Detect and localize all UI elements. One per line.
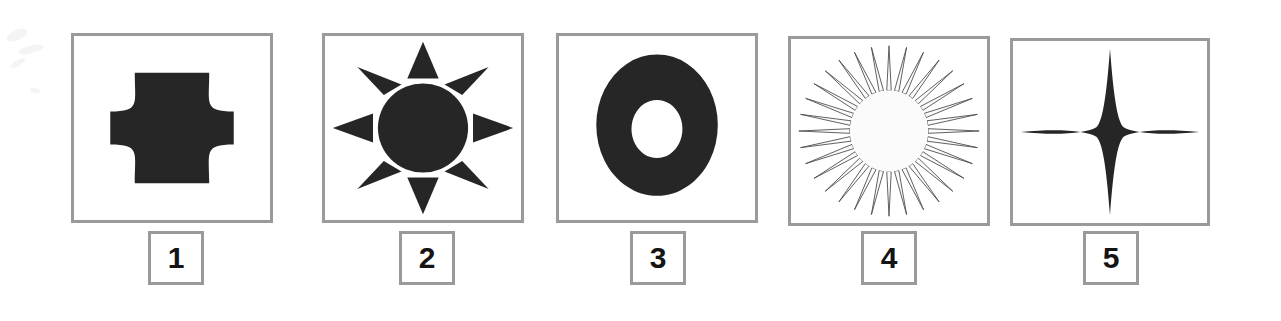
shape-label-number: 1 xyxy=(168,243,185,273)
shape-frame-5 xyxy=(1010,38,1210,226)
concave-square-cross-icon xyxy=(74,36,270,220)
shape-label-box-3: 3 xyxy=(630,231,686,285)
shape-frame-3 xyxy=(556,33,758,223)
shape-label-box-4: 4 xyxy=(861,231,917,285)
shape-label-box-1: 1 xyxy=(148,231,204,285)
starburst-outline-icon xyxy=(791,39,987,223)
shape-label-number: 5 xyxy=(1103,243,1120,273)
shape-frame-1 xyxy=(71,33,273,223)
annulus-ring-icon xyxy=(559,36,755,220)
shape-label-number: 3 xyxy=(650,243,667,273)
four-point-star-icon xyxy=(1013,41,1207,223)
shape-label-number: 4 xyxy=(881,243,898,273)
shape-label-number: 2 xyxy=(419,243,436,273)
shape-frame-4 xyxy=(788,36,990,226)
shape-frame-2 xyxy=(322,33,524,223)
eight-ray-sun-icon xyxy=(325,36,521,220)
shape-label-box-2: 2 xyxy=(399,231,455,285)
shape-label-box-5: 5 xyxy=(1083,231,1139,285)
shape-worksheet-row: 1 2 xyxy=(0,0,1281,321)
